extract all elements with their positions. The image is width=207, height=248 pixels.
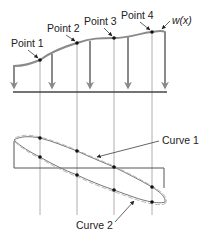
curve-2 [14, 140, 165, 203]
curve-points [38, 136, 154, 204]
label-point-4: Point 4 [121, 9, 154, 21]
diagram-canvas: Point 1 Point 2 Point 3 Point 4 w(x) Cur… [0, 0, 207, 248]
label-point-3: Point 3 [84, 15, 117, 27]
label-point-2: Point 2 [47, 22, 80, 34]
label-point-1: Point 1 [11, 37, 44, 49]
label-curve-2: Curve 2 [76, 219, 113, 231]
guide-lines [40, 32, 152, 215]
label-load-function: w(x) [172, 14, 192, 26]
curve-1 [14, 137, 165, 202]
curve-loop [14, 135, 166, 204]
label-curve-1: Curve 1 [162, 134, 199, 146]
